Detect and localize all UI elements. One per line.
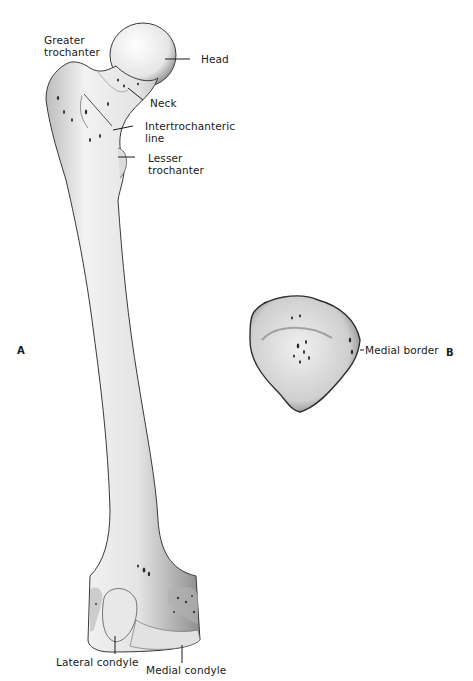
label-intertrochanteric-line1: Intertrochanteric: [145, 120, 235, 132]
label-lesser-trochanter: Lesser trochanter: [148, 152, 204, 176]
label-lesser-trochanter-line2: trochanter: [148, 164, 204, 176]
label-neck: Neck: [150, 97, 177, 109]
panel-label-b: B: [446, 347, 454, 358]
illustration-canvas: [0, 0, 473, 681]
label-lesser-trochanter-line1: Lesser: [148, 152, 204, 164]
patella-body: [250, 296, 360, 412]
label-intertrochanteric-line2: line: [145, 132, 235, 144]
label-lateral-condyle: Lateral condyle: [56, 656, 138, 668]
label-greater-trochanter: Greater trochanter: [44, 34, 100, 58]
label-medial-border: Medial border: [365, 344, 439, 356]
label-head: Head: [201, 53, 229, 65]
label-intertrochanteric-line: Intertrochanteric line: [145, 120, 235, 144]
label-greater-trochanter-line1: Greater: [44, 34, 100, 46]
patella-illustration: [250, 296, 360, 412]
label-greater-trochanter-line2: trochanter: [44, 46, 100, 58]
label-medial-condyle: Medial condyle: [146, 664, 226, 676]
femur-illustration: [46, 23, 200, 652]
panel-label-a: A: [17, 345, 25, 356]
